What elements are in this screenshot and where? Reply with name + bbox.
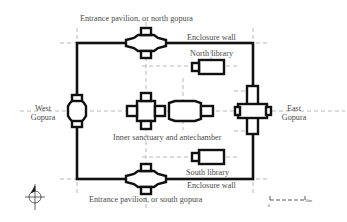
south-library-shape (192, 150, 224, 164)
label-east: East (277, 104, 311, 113)
label-south-gopura: Entrance pavilion, or south gopura (89, 195, 202, 204)
label-east-gopura: East Gopura (277, 104, 311, 122)
west-gopura-shape (68, 95, 86, 127)
scale-start: 0 (268, 201, 270, 210)
label-north-gopura: Entrance pavilion, or north gopura (80, 14, 193, 23)
north-arrow-icon (25, 184, 45, 210)
north-gopura-shape (126, 28, 166, 58)
label-north-library: North library (190, 49, 233, 58)
label-south-library: South library (186, 168, 229, 177)
label-enclosure-wall-top: Enclosure wall (187, 33, 236, 42)
inner-sanctuary-shape (127, 93, 165, 129)
label-west: West (28, 104, 58, 113)
label-west-gopura: West Gopura (28, 104, 58, 122)
label-gopura-east: Gopura (277, 113, 311, 122)
east-gopura-shape (235, 86, 271, 134)
north-library-shape (192, 60, 224, 74)
label-gopura-west: Gopura (28, 113, 58, 122)
scale-end: 10m (305, 196, 312, 205)
label-enclosure-wall-bottom: Enclosure wall (187, 181, 236, 190)
temple-plan-diagram: Entrance pavilion, or north gopura Enclo… (0, 0, 347, 222)
south-gopura-shape (126, 164, 166, 194)
label-inner-sanctuary: Inner sanctuary and antechamber (113, 133, 221, 142)
scale-bar (270, 196, 305, 200)
antechamber-shape (169, 101, 213, 121)
